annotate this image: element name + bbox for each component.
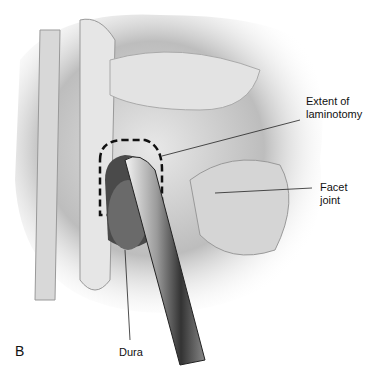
label-extent-of-laminotomy: Extent of laminotomy — [306, 95, 362, 121]
label-facet-joint: Facet joint — [320, 181, 370, 207]
label-extent-line2: laminotomy — [306, 108, 362, 121]
label-dura: Dura — [119, 346, 143, 359]
spine-illustration — [0, 0, 370, 372]
label-extent-line1: Extent of — [306, 95, 362, 108]
panel-label: B — [15, 343, 24, 359]
